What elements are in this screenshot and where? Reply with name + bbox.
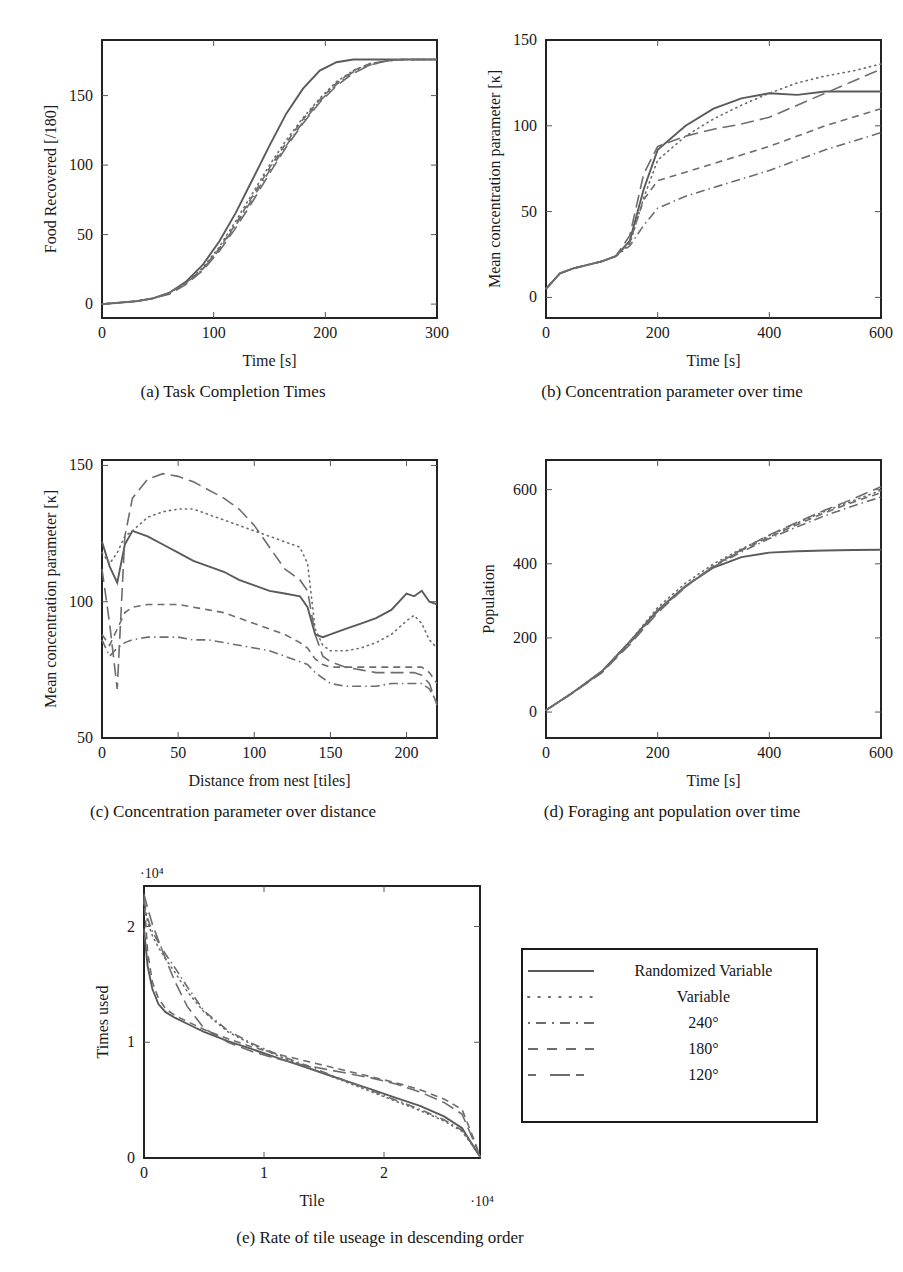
svg-text:0: 0 xyxy=(529,288,537,305)
svg-text:1: 1 xyxy=(260,1164,268,1181)
svg-text:0: 0 xyxy=(542,324,550,341)
legend-row: Randomized Variable xyxy=(523,958,816,984)
chart-e: 012012TileTimes used·10⁴·10⁴ xyxy=(82,858,512,1188)
panel-c: 05010015020050100150Distance from nest [… xyxy=(18,440,448,750)
svg-text:200: 200 xyxy=(646,744,670,761)
chart-c: 05010015020050100150Distance from nest [… xyxy=(18,440,448,750)
svg-text:200: 200 xyxy=(395,744,419,761)
figure-multi-panel: 0100200300050100150Time [s]Food Recovere… xyxy=(0,0,903,1272)
svg-text:Population: Population xyxy=(480,564,498,633)
svg-text:600: 600 xyxy=(869,324,893,341)
svg-text:Time [s]: Time [s] xyxy=(686,352,740,369)
svg-text:Time [s]: Time [s] xyxy=(242,352,296,369)
panel-a: 0100200300050100150Time [s]Food Recovere… xyxy=(18,20,448,330)
svg-text:50: 50 xyxy=(77,729,93,746)
legend-row: Variable xyxy=(523,984,816,1010)
svg-text:0: 0 xyxy=(529,703,537,720)
svg-text:Food Recovered [/180]: Food Recovered [/180] xyxy=(42,105,59,253)
svg-text:400: 400 xyxy=(757,324,781,341)
svg-text:100: 100 xyxy=(69,156,93,173)
panel-e: 012012TileTimes used·10⁴·10⁴ xyxy=(82,858,512,1188)
chart-a: 0100200300050100150Time [s]Food Recovere… xyxy=(18,20,448,330)
svg-text:50: 50 xyxy=(521,203,537,220)
svg-text:0: 0 xyxy=(127,1149,135,1166)
panel-b: 0200400600050100150Time [s]Mean concentr… xyxy=(462,20,892,330)
svg-text:0: 0 xyxy=(85,295,93,312)
legend-sample-dotted xyxy=(523,991,599,1003)
svg-text:50: 50 xyxy=(170,744,186,761)
chart-d: 02004006000200400600Time [s]Population xyxy=(462,440,892,750)
legend-sample-solid xyxy=(523,965,599,977)
svg-text:600: 600 xyxy=(513,481,537,498)
svg-text:100: 100 xyxy=(69,593,93,610)
svg-text:0: 0 xyxy=(140,1164,148,1181)
svg-text:150: 150 xyxy=(513,31,537,48)
legend-row: 180° xyxy=(523,1036,816,1062)
svg-text:100: 100 xyxy=(513,117,537,134)
legend-label-randomized-variable: Randomized Variable xyxy=(599,962,816,980)
svg-text:100: 100 xyxy=(202,324,226,341)
legend-sample-longdash xyxy=(523,1069,599,1081)
caption-c: (c) Concentration parameter over distanc… xyxy=(8,802,458,822)
svg-text:600: 600 xyxy=(869,744,893,761)
legend-row: 240° xyxy=(523,1010,816,1036)
caption-a: (a) Task Completion Times xyxy=(18,382,448,402)
svg-text:1: 1 xyxy=(127,1033,135,1050)
svg-text:150: 150 xyxy=(318,744,342,761)
legend-label-120: 120° xyxy=(599,1066,816,1084)
panel-d: 02004006000200400600Time [s]Population xyxy=(462,440,892,750)
legend: Randomized Variable Variable 240° 180° 1… xyxy=(521,948,818,1123)
svg-text:150: 150 xyxy=(69,87,93,104)
svg-text:200: 200 xyxy=(513,629,537,646)
legend-sample-dashdot xyxy=(523,1017,599,1029)
svg-text:0: 0 xyxy=(98,744,106,761)
legend-label-180: 180° xyxy=(599,1040,816,1058)
legend-row: 120° xyxy=(523,1062,816,1088)
svg-text:Tile: Tile xyxy=(299,1192,324,1209)
svg-text:2: 2 xyxy=(127,918,135,935)
svg-text:·10⁴: ·10⁴ xyxy=(470,1194,494,1209)
svg-text:200: 200 xyxy=(313,324,337,341)
svg-text:50: 50 xyxy=(77,226,93,243)
svg-text:Mean concentration parameter [: Mean concentration parameter [κ] xyxy=(486,70,504,288)
legend-label-variable: Variable xyxy=(599,988,816,1006)
svg-text:200: 200 xyxy=(646,324,670,341)
svg-text:0: 0 xyxy=(98,324,106,341)
caption-d: (d) Foraging ant population over time xyxy=(452,802,892,822)
svg-text:400: 400 xyxy=(757,744,781,761)
svg-text:Time [s]: Time [s] xyxy=(686,772,740,789)
legend-sample-dashed xyxy=(523,1043,599,1055)
svg-text:Mean concentration parameter [: Mean concentration parameter [κ] xyxy=(42,490,60,708)
svg-text:Times used: Times used xyxy=(94,986,111,1059)
caption-e: (e) Rate of tile useage in descending or… xyxy=(130,1228,630,1248)
svg-text:0: 0 xyxy=(542,744,550,761)
svg-text:150: 150 xyxy=(69,456,93,473)
svg-text:400: 400 xyxy=(513,555,537,572)
caption-b: (b) Concentration parameter over time xyxy=(452,382,892,402)
svg-text:2: 2 xyxy=(380,1164,388,1181)
chart-b: 0200400600050100150Time [s]Mean concentr… xyxy=(462,20,892,330)
legend-label-240: 240° xyxy=(599,1014,816,1032)
svg-text:·10⁴: ·10⁴ xyxy=(140,866,164,881)
svg-text:300: 300 xyxy=(425,324,449,341)
svg-text:Distance from nest [tiles]: Distance from nest [tiles] xyxy=(188,772,350,789)
svg-text:100: 100 xyxy=(242,744,266,761)
